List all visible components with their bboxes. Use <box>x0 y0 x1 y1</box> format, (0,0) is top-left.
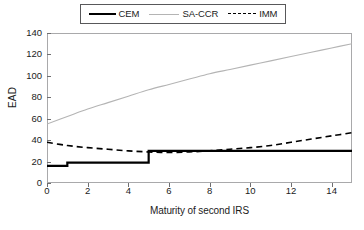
y-axis-tick-100: 100 <box>16 71 42 81</box>
x-axis-tick-12: 12 <box>281 186 301 196</box>
series-line-cem <box>47 151 352 166</box>
x-axis-tick-0: 0 <box>37 186 57 196</box>
y-tick-mark-140 <box>47 33 51 34</box>
x-tick-mark-8 <box>210 183 211 187</box>
y-axis-tick-140: 140 <box>16 28 42 38</box>
y-tick-mark-80 <box>47 97 51 98</box>
x-axis-tick-6: 6 <box>159 186 179 196</box>
y-axis-tick-20: 20 <box>16 157 42 167</box>
plot-series-canvas <box>47 33 352 183</box>
x-axis-tick-14: 14 <box>322 186 342 196</box>
y-axis-tick-120: 120 <box>16 49 42 59</box>
x-tick-mark-14 <box>332 183 333 187</box>
legend-swatch-solid-icon <box>89 9 116 19</box>
chart-legend: CEM SA-CCR IMM <box>80 4 286 24</box>
x-tick-mark-2 <box>88 183 89 187</box>
y-axis-title: EAD <box>7 68 18 128</box>
y-axis-tick-60: 60 <box>16 114 42 124</box>
x-axis-tick-8: 8 <box>200 186 220 196</box>
series-line-imm <box>47 133 352 153</box>
legend-item-cem: CEM <box>89 9 140 19</box>
chart-figure: CEM SA-CCR IMM 020406080100120140 024681… <box>0 0 364 230</box>
legend-label-imm: IMM <box>259 9 277 19</box>
x-axis-tick-2: 2 <box>78 186 98 196</box>
x-tick-mark-4 <box>128 183 129 187</box>
legend-swatch-gray-icon <box>149 9 179 19</box>
x-tick-mark-0 <box>47 183 48 187</box>
y-tick-mark-20 <box>47 162 51 163</box>
x-axis-tick-10: 10 <box>240 186 260 196</box>
y-tick-mark-60 <box>47 119 51 120</box>
y-axis-tick-40: 40 <box>16 135 42 145</box>
x-tick-mark-6 <box>169 183 170 187</box>
y-tick-mark-40 <box>47 140 51 141</box>
legend-label-cem: CEM <box>119 9 140 19</box>
x-tick-mark-10 <box>250 183 251 187</box>
x-axis-title: Maturity of second IRS <box>47 205 352 216</box>
x-axis-tick-4: 4 <box>118 186 138 196</box>
legend-label-sa-ccr: SA-CCR <box>182 9 218 19</box>
legend-item-sa-ccr: SA-CCR <box>139 9 218 19</box>
y-tick-mark-100 <box>47 76 51 77</box>
y-tick-mark-120 <box>47 54 51 55</box>
legend-swatch-dashed-icon <box>228 9 256 19</box>
x-axis-tick-labels: 02468101214 <box>0 186 364 200</box>
x-tick-mark-12 <box>291 183 292 187</box>
y-axis-tick-80: 80 <box>16 92 42 102</box>
series-line-sa-ccr <box>47 44 352 124</box>
legend-item-imm: IMM <box>218 9 277 19</box>
